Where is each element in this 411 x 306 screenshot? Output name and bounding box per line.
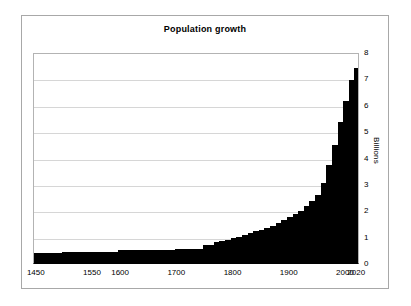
y-axis-title: Billions (372, 137, 381, 164)
y-axis-tick-label: 0 (364, 259, 368, 268)
x-axis-tick-label: 1450 (23, 268, 49, 277)
y-axis-tick-label: 2 (364, 206, 368, 215)
x-axis-tick-label: 1800 (220, 268, 246, 277)
y-axis-tick-label: 7 (364, 74, 368, 83)
y-axis-tick-label: 1 (364, 233, 368, 242)
x-axis-tick-label: 1700 (163, 268, 189, 277)
x-axis-tick-label: 2020 (343, 268, 369, 277)
y-axis-tick-label: 5 (364, 127, 368, 136)
y-axis-tick-label: 8 (364, 48, 368, 57)
x-axis-tick-label: 1600 (107, 268, 133, 277)
y-axis-tick-label: 6 (364, 101, 368, 110)
chart-title: Population growth (22, 24, 388, 34)
bar (354, 68, 359, 263)
bar-series (34, 54, 358, 263)
chart-frame: Population growth 012345678 Billions 145… (21, 15, 389, 289)
x-axis-tick-label: 1550 (79, 268, 105, 277)
plot-area (33, 53, 359, 264)
y-axis-tick-label: 3 (364, 180, 368, 189)
x-axis-tick-label: 1900 (276, 268, 302, 277)
y-axis-tick-label: 4 (364, 154, 368, 163)
